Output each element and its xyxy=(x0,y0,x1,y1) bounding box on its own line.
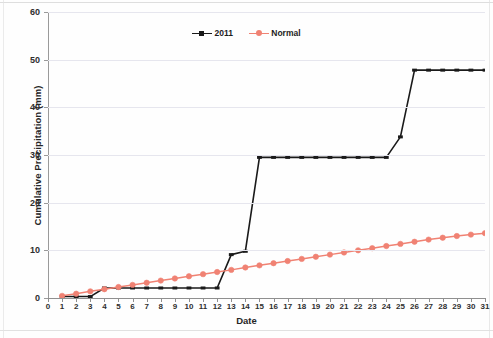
x-tick-mark xyxy=(133,299,134,302)
x-tick-mark xyxy=(76,299,77,302)
x-tick-mark xyxy=(302,299,303,302)
x-tick-mark xyxy=(344,299,345,302)
x-axis-title: Date xyxy=(0,315,493,326)
x-tick-mark xyxy=(217,299,218,302)
x-tick-mark xyxy=(203,299,204,302)
x-tick-mark xyxy=(457,299,458,302)
x-tick-mark xyxy=(118,299,119,302)
x-tick-mark xyxy=(400,299,401,302)
x-tick-mark xyxy=(62,299,63,302)
x-tick-mark xyxy=(90,299,91,302)
x-tick-mark xyxy=(104,299,105,302)
x-tick-marks-group xyxy=(0,0,493,338)
x-tick-mark xyxy=(147,299,148,302)
x-tick-mark xyxy=(259,299,260,302)
x-tick-mark xyxy=(372,299,373,302)
x-tick-mark xyxy=(485,299,486,302)
x-tick-mark xyxy=(245,299,246,302)
x-tick-mark xyxy=(415,299,416,302)
x-tick-mark xyxy=(358,299,359,302)
x-tick-mark xyxy=(386,299,387,302)
x-tick-mark xyxy=(231,299,232,302)
x-tick-mark xyxy=(471,299,472,302)
x-tick-mark xyxy=(48,299,49,302)
y-axis-title-wrap: Cumulative Precipitation (mm) xyxy=(14,10,28,290)
x-tick-mark xyxy=(443,299,444,302)
precipitation-chart-figure: 2011 Normal 0102030405060 01234567891011… xyxy=(0,0,493,338)
x-tick-mark xyxy=(175,299,176,302)
x-tick-mark xyxy=(274,299,275,302)
x-tick-mark xyxy=(429,299,430,302)
y-axis-title: Cumulative Precipitation (mm) xyxy=(32,61,43,251)
x-tick-mark xyxy=(189,299,190,302)
x-tick-mark xyxy=(288,299,289,302)
x-tick-mark xyxy=(316,299,317,302)
x-tick-mark xyxy=(161,299,162,302)
x-tick-mark xyxy=(330,299,331,302)
